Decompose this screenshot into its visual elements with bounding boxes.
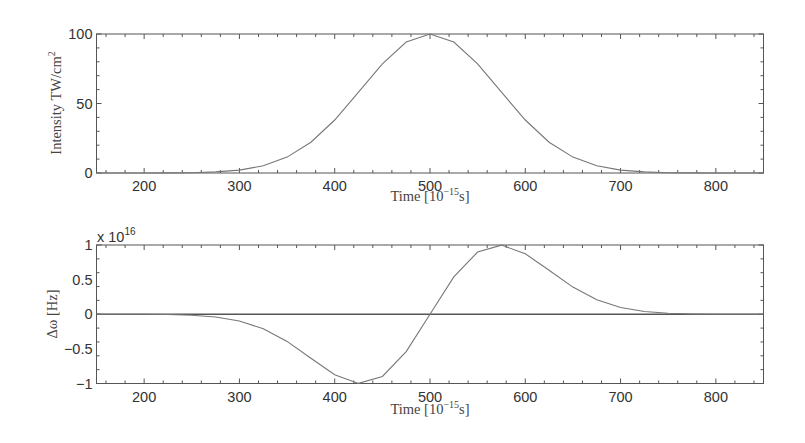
y-tick-label: 50 <box>76 96 92 112</box>
y-multiplier: x 1016 <box>97 226 136 245</box>
y-tick-label: 0.5 <box>72 272 92 288</box>
x-tick-label: 300 <box>227 389 251 405</box>
x-tick-label: 700 <box>608 389 632 405</box>
intensity-curve <box>97 34 764 173</box>
intensity-plot: 200300400500600700800 050100 Time [10−15… <box>46 26 764 204</box>
y-tick-label: 100 <box>68 26 92 42</box>
x-tick-label: 200 <box>132 389 156 405</box>
y-tick-label: 0 <box>84 165 92 181</box>
top-x-axis-label: Time [10−15s] <box>390 186 469 204</box>
y-tick-label: −0.5 <box>64 341 93 357</box>
x-tick-label: 200 <box>132 178 156 194</box>
top-y-tick-labels: 050100 <box>68 26 92 181</box>
x-tick-label: 800 <box>704 389 728 405</box>
x-tick-label: 700 <box>608 178 632 194</box>
x-tick-label: 600 <box>513 178 537 194</box>
top-x-ticks <box>106 34 754 173</box>
bottom-x-axis-label: Time [10−15s] <box>390 399 469 417</box>
figure: 200300400500600700800 050100 Time [10−15… <box>0 0 805 443</box>
top-y-axis-label: Intensity TW/cm2 <box>46 51 64 154</box>
x-tick-label: 400 <box>323 389 347 405</box>
x-tick-label: 400 <box>323 178 347 194</box>
x-tick-label: 800 <box>704 178 728 194</box>
bottom-y-axis-label: Δω [Hz] <box>44 289 60 338</box>
frequency-shift-plot: 200300400500600700800 −1−0.500.51 x 1016… <box>44 226 764 417</box>
top-axes-frame <box>97 34 764 173</box>
top-y-ticks <box>97 34 764 173</box>
y-tick-label: −1 <box>76 376 93 392</box>
x-tick-label: 300 <box>227 178 251 194</box>
bottom-y-tick-labels: −1−0.500.51 <box>64 237 93 392</box>
y-tick-label: 1 <box>84 237 92 253</box>
y-tick-label: 0 <box>84 306 92 322</box>
x-tick-label: 600 <box>513 389 537 405</box>
